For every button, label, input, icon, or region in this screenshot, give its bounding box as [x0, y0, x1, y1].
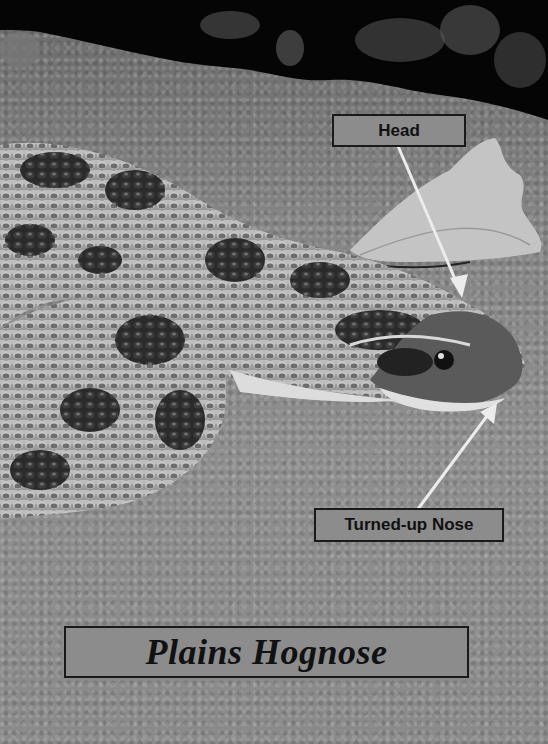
head-label: Head — [332, 114, 466, 147]
species-title: Plains Hognose — [64, 626, 469, 678]
species-title-text: Plains Hognose — [145, 631, 387, 673]
head-label-text: Head — [378, 121, 420, 141]
nose-arrow — [418, 403, 497, 509]
nose-label-text: Turned-up Nose — [344, 515, 473, 535]
head-arrow — [398, 146, 468, 298]
photo-scene: Head Turned-up Nose Plains Hognose — [0, 0, 548, 744]
nose-label: Turned-up Nose — [314, 508, 504, 542]
